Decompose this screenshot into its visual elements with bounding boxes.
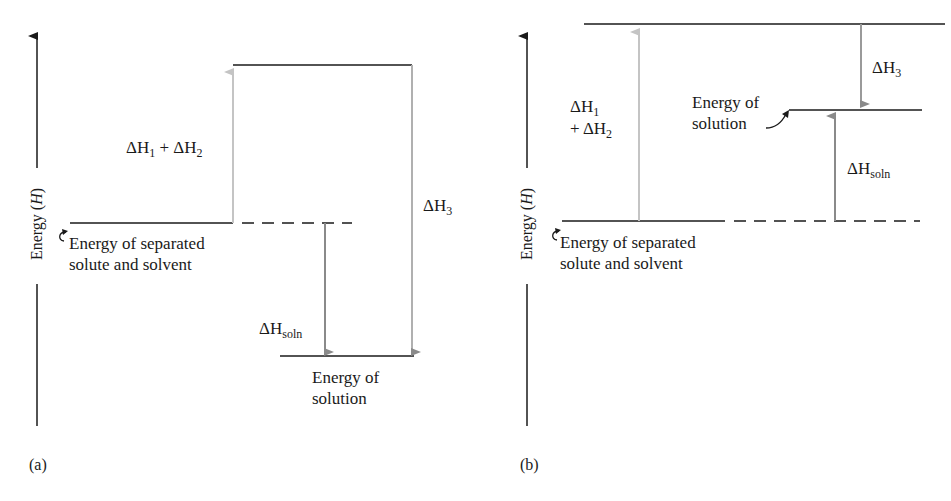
panel-tag-b: (b)	[520, 456, 539, 474]
delta-h: ΔH	[423, 196, 446, 215]
plus-delta-h: + ΔH	[570, 119, 606, 138]
subscript: 2	[197, 146, 203, 160]
delta-h: ΔH	[570, 97, 593, 116]
axis-word: Energy	[518, 214, 535, 260]
delta-h: ΔH	[126, 138, 149, 157]
label-separated: Energy of separated solute and solvent	[69, 233, 205, 275]
label-separated: Energy of separated solute and solvent	[560, 232, 696, 274]
subscript: soln	[282, 327, 302, 341]
label-dhsoln: ΔHsoln	[259, 318, 302, 345]
subscript: 1	[593, 105, 599, 119]
label-dh1-dh2: ΔH1 + ΔH2	[126, 137, 203, 164]
label-solution: Energy of solution	[692, 92, 759, 134]
axis-word: Energy	[28, 214, 45, 260]
label-dh3: ΔH3	[423, 195, 452, 222]
subscript: 3	[446, 204, 452, 218]
label-dh3: ΔH3	[872, 57, 901, 84]
label-line: Energy of	[692, 92, 759, 113]
label-line: solution	[312, 388, 379, 409]
panel-b	[527, 24, 945, 426]
label-line: Energy of separated	[560, 232, 696, 253]
subscript: 3	[895, 66, 901, 80]
label-line: solution	[692, 113, 759, 134]
delta-h: ΔH	[259, 319, 282, 338]
subscript: 2	[606, 127, 612, 141]
label-dhsoln: ΔHsoln	[847, 158, 890, 185]
label-solution: Energy of solution	[312, 367, 379, 409]
label-dh2: + ΔH2	[570, 118, 612, 145]
pointer-solution-icon	[766, 114, 786, 128]
subscript: soln	[870, 167, 890, 181]
delta-h: ΔH	[847, 159, 870, 178]
plus-delta-h: + ΔH	[155, 138, 196, 157]
panel-tag-a: (a)	[29, 456, 47, 474]
label-line: Energy of	[312, 367, 379, 388]
delta-h: ΔH	[872, 58, 895, 77]
label-line: Energy of separated	[69, 233, 205, 254]
axis-symbol: H	[518, 193, 535, 205]
energy-axis-label: Energy (H)	[28, 181, 46, 267]
label-line: solute and solvent	[69, 254, 205, 275]
label-line: solute and solvent	[560, 253, 696, 274]
energy-axis-label: Energy (H)	[518, 181, 536, 267]
axis-symbol: H	[28, 193, 45, 205]
